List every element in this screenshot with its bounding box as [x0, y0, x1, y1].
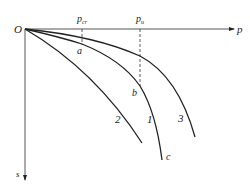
curve-3-label: 3	[177, 112, 184, 124]
curve-1	[25, 29, 162, 160]
load-settlement-diagram: O p s pcr pu a b c 2 1 3	[0, 0, 250, 184]
p-axis-label: p	[236, 23, 243, 35]
curve-2	[25, 29, 142, 143]
curve-1-label: 1	[147, 113, 153, 125]
pcr-label-sub: cr	[82, 19, 88, 25]
point-a-label: a	[77, 45, 82, 56]
pcr-label: pcr	[76, 13, 88, 25]
s-axis-label: s	[16, 169, 20, 179]
origin-label: O	[14, 23, 22, 35]
pu-label: pu	[135, 13, 144, 25]
point-c-label: c	[166, 151, 171, 162]
curve-2-label: 2	[115, 113, 121, 125]
pu-label-sub: u	[141, 19, 144, 25]
point-b-label: b	[132, 87, 137, 98]
